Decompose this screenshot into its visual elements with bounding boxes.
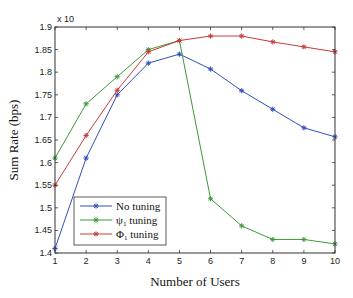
y-tick-label: 1.7	[39, 112, 52, 122]
x-tick-label: 3	[115, 256, 120, 266]
y-tick-label: 1.85	[34, 45, 52, 55]
y-tick-label: 1.55	[34, 180, 52, 190]
legend-item-label: No tuning	[116, 200, 161, 212]
y-tick-label: 1.4	[39, 248, 52, 258]
x-tick-label: 8	[270, 256, 275, 266]
legend-item-label: ψ1 tuning	[116, 214, 158, 228]
x-tick-label: 6	[208, 256, 213, 266]
legend-item-label: Φ1 tuning	[116, 228, 159, 242]
x-tick-label: 5	[177, 256, 182, 266]
x-tick-label: 4	[146, 256, 151, 266]
sum-rate-chart: 1.41.451.51.551.61.651.71.751.81.851.9 1…	[0, 0, 353, 298]
series-2	[52, 33, 337, 187]
x-axis-label: Number of Users	[150, 274, 240, 289]
y-tick-label: 1.6	[39, 158, 52, 168]
y-tick-label: 1.75	[34, 90, 52, 100]
x-tick-label: 10	[330, 256, 340, 266]
y-tick-label: 1.65	[34, 135, 52, 145]
legend: No tuningψ1 tuningΦ1 tuning	[74, 197, 166, 245]
x-tick-label: 7	[239, 256, 244, 266]
y-axis-label: Sum Rate (bps)	[6, 100, 21, 181]
y-tick-label: 1.5	[39, 203, 52, 213]
y-tick-label: 1.8	[39, 67, 52, 77]
y-multiplier-label: x 10	[57, 14, 74, 24]
x-tick-label: 1	[52, 256, 57, 266]
y-tick-label: 1.9	[39, 22, 52, 32]
x-tick-label: 2	[84, 256, 89, 266]
x-tick-label: 9	[301, 256, 306, 266]
y-tick-label: 1.45	[34, 225, 52, 235]
